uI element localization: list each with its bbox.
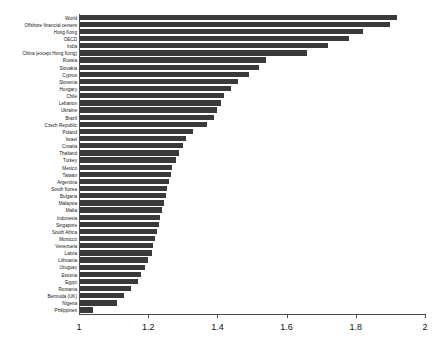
bar [79, 136, 186, 141]
bar [79, 207, 162, 212]
x-axis-tick [217, 314, 218, 318]
bar [79, 100, 221, 105]
bar [79, 215, 160, 220]
bar-category-label: Ukraine [61, 108, 77, 113]
bar [79, 257, 148, 262]
bar-category-label: World [65, 15, 77, 20]
bar-row: Russia [79, 57, 425, 64]
bar-category-label: Croatia [62, 144, 77, 149]
bar [79, 300, 117, 305]
bar-row: OECD [79, 35, 425, 42]
bar [79, 272, 141, 277]
bar-category-label: Lebanon [59, 101, 77, 106]
bar-category-label: Offshore financial centers [24, 22, 77, 27]
bar-category-label: Poland [63, 129, 77, 134]
bar-category-label: Czech Republic [45, 122, 77, 127]
bar [79, 50, 307, 55]
bar [79, 307, 93, 312]
bar-row: Bulgaria [79, 193, 425, 200]
bar-category-label: Bermuda (UK) [47, 294, 77, 299]
bar-row: Hong Kong [79, 28, 425, 35]
bar [79, 86, 231, 91]
bar-row: Romania [79, 285, 425, 292]
bar-category-label: Lithuania [58, 258, 77, 263]
x-axis-tick-label: 2 [422, 322, 427, 332]
bar-category-label: Taiwan [63, 172, 77, 177]
bar-row: Turkey [79, 157, 425, 164]
bar [79, 150, 179, 155]
bar-row: Croatia [79, 143, 425, 150]
bar [79, 165, 172, 170]
bar [79, 36, 349, 41]
bar [79, 193, 166, 198]
bar-row: Philippines [79, 307, 425, 314]
bar [79, 229, 157, 234]
bar-category-label: Slovakia [59, 65, 77, 70]
bar-category-label: India [67, 44, 77, 49]
bar-category-label: Hungary [59, 86, 77, 91]
x-axis-tick-label: 1.4 [211, 322, 224, 332]
x-axis-tick [425, 314, 426, 318]
bar-category-label: Bulgaria [60, 194, 77, 199]
bar [79, 57, 266, 62]
bar-category-label: Chile [66, 94, 77, 99]
bar [79, 22, 390, 27]
bar [79, 286, 131, 291]
bar-row: Israel [79, 135, 425, 142]
bar-row: Uruguay [79, 264, 425, 271]
bar [79, 65, 259, 70]
bar [79, 265, 145, 270]
x-axis-tick [287, 314, 288, 318]
bar-row: Indonesia [79, 214, 425, 221]
bar [79, 15, 397, 20]
bar [79, 115, 214, 120]
x-axis-tick-label: 1.2 [142, 322, 155, 332]
bar-category-label: Venezuela [55, 244, 77, 249]
bar-row: Egypt [79, 278, 425, 285]
bar-category-label: Mexico [62, 165, 77, 170]
bar [79, 122, 207, 127]
bar-row: Slovakia [79, 64, 425, 71]
bar-category-label: Cyprus [62, 72, 77, 77]
bar-row: Brazil [79, 114, 425, 121]
bar-row: China (except Hong Kong) [79, 50, 425, 57]
bar-category-label: Estonia [62, 272, 77, 277]
x-axis-tick [148, 314, 149, 318]
bar-row: Morocco [79, 235, 425, 242]
bar-row: South Korea [79, 185, 425, 192]
bar-row: Bermuda (UK) [79, 292, 425, 299]
bar-category-label: Russia [63, 58, 77, 63]
bar-category-label: Uruguay [59, 265, 77, 270]
bar-row: Lebanon [79, 100, 425, 107]
bar [79, 200, 164, 205]
bar-category-label: South Africa [52, 229, 77, 234]
bar-category-label: Nigeria [62, 301, 77, 306]
bar-category-label: Philippines [55, 308, 77, 313]
bar [79, 236, 155, 241]
bar-category-label: Latvia [65, 251, 77, 256]
bar-category-label: Turkey [63, 158, 77, 163]
x-axis-tick [356, 314, 357, 318]
x-axis-tick-label: 1.8 [350, 322, 363, 332]
bar-row: Latvia [79, 250, 425, 257]
bar-category-label: Brazil [65, 115, 77, 120]
bar-row: Malta [79, 207, 425, 214]
bar-category-label: Morocco [59, 236, 77, 241]
bar [79, 43, 328, 48]
bar-row: Malaysia [79, 200, 425, 207]
bar-row: Argentina [79, 178, 425, 185]
bar [79, 222, 159, 227]
y-axis-line [79, 14, 80, 314]
bar-category-label: OECD [64, 36, 77, 41]
bar [79, 107, 217, 112]
bar-category-label: Romania [58, 286, 77, 291]
bar-row: Offshore financial centers [79, 21, 425, 28]
x-axis-tick-label: 1 [76, 322, 81, 332]
bar-row: Czech Republic [79, 121, 425, 128]
bar-row: Venezuela [79, 243, 425, 250]
bar-row: Cyprus [79, 71, 425, 78]
bar-row: Chile [79, 93, 425, 100]
bar-row: Slovenia [79, 78, 425, 85]
bar [79, 129, 193, 134]
bar-row: Thailand [79, 150, 425, 157]
